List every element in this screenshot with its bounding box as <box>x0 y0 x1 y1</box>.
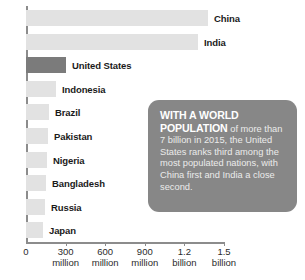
bar-label-brazil: Brazil <box>55 107 80 118</box>
bar-label-pakistan: Pakistan <box>54 131 92 142</box>
bar-label-indonesia: Indonesia <box>62 83 105 94</box>
bar-row: India <box>26 34 246 50</box>
bar-pakistan <box>26 128 48 144</box>
bar-brazil <box>26 104 49 120</box>
bar-row: Indonesia <box>26 81 246 97</box>
bar-label-nigeria: Nigeria <box>53 154 85 165</box>
bar-united-states <box>26 57 66 73</box>
callout-box: WITH A WORLD POPULATION of more than 7 b… <box>148 100 297 212</box>
bar-label-united-states: United States <box>72 60 131 71</box>
bar-row: United States <box>26 57 246 73</box>
bar-label-russia: Russia <box>51 201 82 212</box>
bar-japan <box>26 222 43 238</box>
bar-nigeria <box>26 152 47 168</box>
bar-russia <box>26 199 45 215</box>
bar-label-japan: Japan <box>49 225 76 236</box>
x-tick-label: 1.5billion <box>199 246 249 268</box>
bar-row: Japan <box>26 222 246 238</box>
x-axis-line <box>26 242 224 244</box>
bar-indonesia <box>26 81 56 97</box>
bar-bangladesh <box>26 175 46 191</box>
bar-label-bangladesh: Bangladesh <box>52 178 105 189</box>
x-tick-value: 1.5 <box>199 246 249 257</box>
bar-india <box>26 34 198 50</box>
population-bar-chart: ChinaIndiaUnited StatesIndonesiaBrazilPa… <box>0 0 305 280</box>
x-axis-tick-labels: 0300million600million900million1.2billio… <box>0 246 305 280</box>
bar-china <box>26 10 208 26</box>
x-tick-unit: billion <box>199 257 249 268</box>
bar-label-india: India <box>204 36 226 47</box>
bar-label-china: China <box>214 13 240 24</box>
bar-row: China <box>26 10 246 26</box>
